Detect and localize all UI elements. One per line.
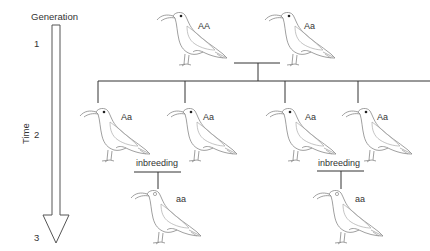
- pedigree-diagram: [0, 0, 430, 251]
- genotype-gen1-right: Aa: [304, 21, 315, 31]
- eye-filled-icon: [190, 111, 193, 114]
- genotype-gen2-c: Aa: [305, 112, 316, 122]
- bird-gen2-c: [266, 108, 336, 162]
- generation-label-3: 3: [34, 232, 39, 243]
- bird-gen2-a: [80, 108, 150, 162]
- time-label: Time: [20, 123, 31, 144]
- time-arrow: [43, 25, 69, 243]
- genotype-gen2-a: Aa: [121, 112, 132, 122]
- eye-filled-icon: [289, 111, 292, 114]
- bird-gen1-right: [265, 12, 335, 66]
- eye-filled-icon: [180, 15, 183, 18]
- eye-filled-icon: [103, 111, 106, 114]
- bird-gen3-right: [313, 190, 383, 244]
- bird-gen3-left: [131, 190, 201, 244]
- eye-filled-icon: [365, 111, 368, 114]
- generation-title: Generation: [31, 11, 78, 22]
- inbreeding-label-left: inbreeding: [136, 158, 178, 168]
- eye-filled-icon: [288, 15, 291, 18]
- generation-label-1: 1: [34, 38, 39, 49]
- genotype-gen2-b: Aa: [203, 112, 214, 122]
- genotype-gen3-left: aa: [176, 194, 186, 204]
- eye-open-icon: [153, 192, 156, 195]
- inbreeding-label-right: inbreeding: [318, 158, 360, 168]
- bird-gen2-b: [167, 108, 237, 162]
- genotype-gen3-right: aa: [355, 194, 365, 204]
- generation-label-2: 2: [34, 129, 39, 140]
- genotype-gen2-d: Aa: [377, 112, 388, 122]
- bird-gen1-left: [157, 12, 227, 66]
- genotype-gen1-left: AA: [198, 21, 210, 31]
- eye-open-icon: [335, 192, 338, 195]
